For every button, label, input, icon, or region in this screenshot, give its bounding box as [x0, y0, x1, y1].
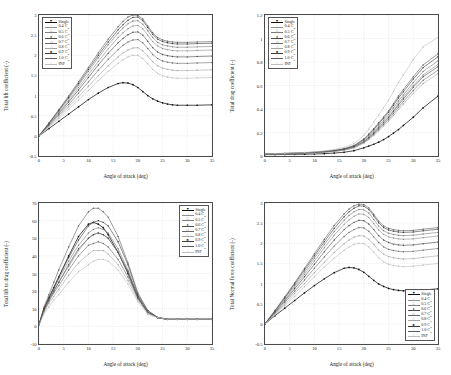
- legend-item[interactable]: ×INF: [182, 249, 206, 254]
- series-marker: [142, 34, 143, 35]
- series-marker: [162, 102, 164, 104]
- series-marker: [412, 116, 414, 118]
- legend[interactable]: ▼Single○0.4 CR□0.5 CR●0.6 CR◇0.7 CR△0.8 …: [179, 205, 209, 257]
- series-marker: [108, 53, 109, 54]
- series-marker: [117, 252, 118, 253]
- series-marker: [353, 145, 354, 146]
- series-marker: [142, 50, 143, 51]
- series-marker: [117, 29, 118, 30]
- x-tick-label: 0: [38, 346, 40, 351]
- series-marker: [53, 292, 54, 293]
- series-marker: [132, 25, 133, 26]
- series-marker: [177, 43, 178, 44]
- series-marker: [187, 63, 188, 64]
- x-tick-label: 30: [185, 158, 190, 163]
- series-marker: [43, 312, 44, 313]
- series-marker: [88, 264, 89, 265]
- series-marker: [108, 65, 109, 66]
- series-marker: [167, 69, 168, 70]
- series-marker: [53, 282, 54, 283]
- series-marker: [358, 269, 360, 271]
- series-marker: [53, 287, 54, 288]
- series-marker: [378, 220, 379, 221]
- series-marker: [157, 37, 158, 38]
- series-marker: [53, 290, 54, 291]
- series-marker: [147, 25, 148, 26]
- x-tick-label: 10: [86, 346, 91, 351]
- legend-item[interactable]: ×INF: [45, 61, 69, 66]
- series-line: [39, 251, 212, 325]
- series-marker: [177, 50, 178, 51]
- series-marker: [274, 314, 275, 315]
- series-marker: [78, 255, 79, 256]
- legend-item[interactable]: ×INF: [271, 61, 295, 66]
- series-marker: [167, 45, 168, 46]
- series-marker: [48, 301, 49, 302]
- series-marker: [97, 92, 99, 94]
- series-marker: [78, 96, 79, 97]
- series-marker: [177, 70, 178, 71]
- series-marker: [108, 232, 109, 233]
- series-marker: [398, 100, 399, 101]
- series-marker: [398, 231, 399, 232]
- series-marker: [422, 237, 423, 238]
- series-marker: [147, 63, 148, 64]
- series-marker: [284, 302, 285, 303]
- series-marker: [333, 272, 335, 274]
- series-marker: [142, 58, 143, 59]
- series-marker: [383, 122, 384, 123]
- series-marker: [152, 37, 153, 38]
- series-marker: [147, 30, 148, 31]
- series-marker: [48, 297, 49, 298]
- series-marker: [58, 113, 59, 114]
- series-marker: [117, 42, 118, 43]
- y-axis-label-host: Total lift to drag coefficient (-): [8, 202, 18, 345]
- series-marker: [388, 110, 389, 111]
- series-marker: [343, 147, 344, 148]
- x-tick-label: 5: [63, 158, 65, 163]
- series-marker: [127, 283, 128, 284]
- series-marker: [358, 204, 359, 205]
- series-marker: [98, 75, 99, 76]
- series-marker: [368, 139, 369, 140]
- x-tick-label: 20: [362, 158, 367, 163]
- series-marker: [368, 145, 370, 147]
- series-marker: [103, 259, 104, 260]
- series-marker: [58, 269, 59, 270]
- legend-swatch: ×: [408, 333, 420, 338]
- series-marker: [403, 266, 404, 267]
- series-marker: [108, 225, 109, 226]
- series-marker: [403, 98, 404, 99]
- series-marker: [348, 239, 349, 240]
- series-marker: [68, 101, 69, 102]
- series-marker: [177, 104, 179, 106]
- series-marker: [358, 235, 359, 236]
- series-marker: [413, 82, 414, 83]
- series-marker: [422, 228, 423, 229]
- series-marker: [172, 46, 173, 47]
- series-marker: [68, 104, 69, 105]
- series-marker: [378, 235, 379, 236]
- series-marker: [58, 118, 59, 119]
- y-tick-label: 50: [32, 236, 37, 241]
- series-marker: [403, 230, 404, 231]
- series-marker: [388, 249, 389, 250]
- series-marker: [127, 23, 128, 24]
- series-marker: [314, 268, 315, 269]
- series-marker: [78, 236, 80, 238]
- series-marker: [363, 138, 364, 139]
- series-marker: [108, 44, 109, 45]
- legend[interactable]: ▼Single○0.4 CR□0.5 CR●0.6 CR◇0.7 CR△0.8 …: [268, 17, 298, 69]
- series-marker: [68, 275, 69, 276]
- x-tick-label: 35: [210, 346, 215, 351]
- series-marker: [68, 264, 69, 265]
- series-marker: [187, 50, 188, 51]
- series-marker: [422, 64, 423, 65]
- legend-swatch: ×: [271, 61, 283, 66]
- legend[interactable]: ▼Single○0.4 CR□0.5 CR●0.6 CR◇0.7 CR△0.8 …: [42, 17, 72, 69]
- series-marker: [334, 239, 335, 240]
- series-marker: [343, 249, 344, 250]
- legend[interactable]: ▼Single○0.4 CR□0.5 CR●0.6 CR◇0.7 CR△0.8 …: [405, 289, 435, 341]
- series-marker: [211, 55, 212, 56]
- legend-item[interactable]: ×INF: [408, 333, 432, 338]
